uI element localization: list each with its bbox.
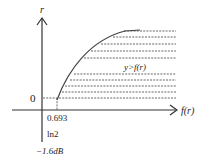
y-axis-label: r xyxy=(40,4,44,15)
zero-label: 0 xyxy=(30,92,36,104)
tick-db-label: −1.6dB xyxy=(36,146,64,156)
tick-value-label: 0.693 xyxy=(47,113,68,123)
hatch-lines xyxy=(43,31,176,98)
x-axis-label: f(r) xyxy=(181,105,195,117)
tick-ln-label: ln2 xyxy=(47,129,59,139)
rate-diagram: r f(r) 0 y>f(r) 0.693 ln2 −1.6dB xyxy=(0,0,206,166)
region-label: y>f(r) xyxy=(123,62,146,72)
